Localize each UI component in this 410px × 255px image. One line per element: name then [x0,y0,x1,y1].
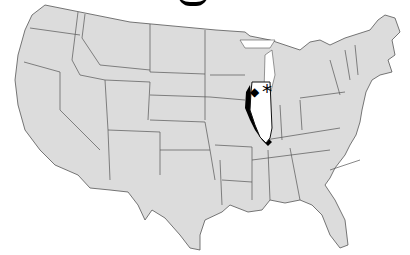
us-landmass [15,5,400,250]
us-map [0,0,410,255]
diamond-marker-icon: ◆ [250,82,259,102]
lake-superior [240,40,275,48]
chicago-star-icon: * [262,81,272,101]
